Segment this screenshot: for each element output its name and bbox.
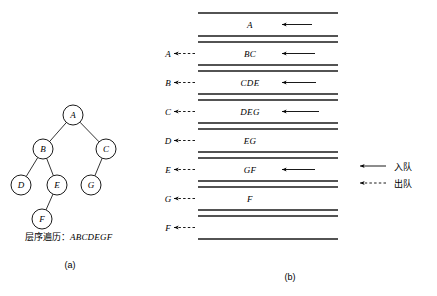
tree-node-label: D bbox=[17, 180, 25, 190]
dequeued-element-label: B bbox=[165, 78, 171, 88]
tree-node-label: G bbox=[88, 180, 95, 190]
tree-node-label: E bbox=[53, 180, 60, 190]
tree-edge-B-E bbox=[47, 158, 54, 175]
tree-node-a: A bbox=[63, 105, 83, 125]
queue-content-label: DEG bbox=[239, 107, 260, 117]
tree-edge-E-F bbox=[46, 194, 53, 210]
queue-content-label: GF bbox=[244, 165, 257, 175]
dequeued-element-label: F bbox=[164, 223, 171, 233]
tree-node-b: B bbox=[33, 139, 53, 159]
tree-node-c: C bbox=[96, 139, 116, 159]
queue-row: GF bbox=[165, 187, 338, 210]
panel-a-caption: (a) bbox=[0, 260, 140, 270]
queue-row: BCDE bbox=[165, 71, 338, 94]
tree-node-label: B bbox=[40, 144, 46, 154]
queue-row: DEG bbox=[164, 129, 338, 152]
traversal-label: 层序遍历： bbox=[25, 232, 70, 242]
panel-b-queue-trace: AABCBCDECDEGDEGEGFGFF 入队出队 (b) bbox=[160, 0, 437, 296]
tree-node-label: F bbox=[38, 214, 45, 224]
queue-content-label: A bbox=[246, 20, 253, 30]
legend-label: 出队 bbox=[394, 178, 412, 189]
tree-edge-A-B bbox=[50, 122, 67, 141]
tree-edge-B-D bbox=[26, 158, 38, 177]
tree-edge-A-C bbox=[80, 122, 99, 142]
legend-label: 入队 bbox=[394, 161, 412, 172]
queue-row: ABC bbox=[164, 42, 338, 65]
queue-content-label: CDE bbox=[241, 78, 260, 88]
dequeued-element-label: C bbox=[165, 107, 172, 117]
tree-node-group: ABCDEGF bbox=[11, 105, 116, 229]
tree-node-label: A bbox=[69, 110, 76, 120]
queue-row: EGF bbox=[164, 158, 338, 181]
traversal-sequence: ABCDEGF bbox=[70, 232, 112, 242]
dequeued-element-label: D bbox=[164, 136, 172, 146]
tree-node-label: C bbox=[103, 144, 110, 154]
queue-row-group: AABCBCDECDEGDEGEGFGFF bbox=[164, 13, 338, 239]
queue-row: CDEG bbox=[165, 100, 338, 123]
tree-edge-C-G bbox=[95, 158, 102, 176]
queue-row: F bbox=[164, 216, 338, 239]
queue-content-label: EG bbox=[243, 136, 257, 146]
dequeued-element-label: E bbox=[164, 165, 171, 175]
tree-node-e: E bbox=[47, 175, 67, 195]
queue-trace-svg: AABCBCDECDEGDEGEGFGFF 入队出队 bbox=[160, 0, 437, 270]
tree-edge-group bbox=[26, 122, 102, 210]
panel-b-caption: (b) bbox=[190, 272, 390, 282]
tree-node-f: F bbox=[32, 209, 52, 229]
tree-node-g: G bbox=[81, 175, 101, 195]
dequeued-element-label: G bbox=[165, 194, 172, 204]
legend-item-dequeue: 出队 bbox=[360, 178, 412, 189]
queue-legend-group: 入队出队 bbox=[360, 161, 412, 189]
tree-node-d: D bbox=[11, 175, 31, 195]
dequeued-element-label: A bbox=[164, 49, 171, 59]
queue-content-label: F bbox=[246, 194, 253, 204]
queue-row: A bbox=[198, 13, 338, 36]
figure-binary-tree-level-order: ABCDEGF 层序遍历：ABCDEGF (a) AABCBCDECDEGDEG… bbox=[0, 0, 437, 296]
legend-item-enqueue: 入队 bbox=[360, 161, 412, 172]
queue-content-label: BC bbox=[244, 49, 257, 59]
